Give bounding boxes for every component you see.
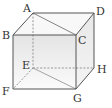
vertex-label-C: C [78, 34, 86, 47]
vertex-label-G: G [73, 92, 82, 105]
vertex-label-E: E [22, 59, 30, 72]
vertex-label-H: H [97, 63, 107, 76]
cube-diagram: A B C D E F G H [0, 0, 112, 108]
vertex-label-A: A [22, 2, 32, 15]
vertex-label-D: D [96, 5, 105, 18]
vertex-label-B: B [2, 29, 10, 42]
vertex-label-F: F [2, 85, 10, 98]
